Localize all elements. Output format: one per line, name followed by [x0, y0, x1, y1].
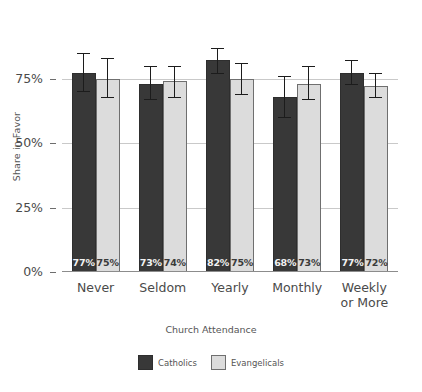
plot-area: 77%75%73%74%82%75%68%73%77%72%: [62, 14, 398, 272]
error-bar: [308, 66, 309, 100]
error-bar: [174, 66, 175, 97]
error-bar-cap-upper: [77, 53, 90, 54]
legend-label: Catholics: [158, 358, 197, 368]
bar-evangelicals[interactable]: 73%: [297, 84, 321, 272]
error-bar: [284, 76, 285, 117]
error-bar-cap-upper: [235, 63, 248, 64]
y-axis-tickmark: [50, 272, 56, 273]
bar-value-label: 75%: [231, 257, 253, 268]
bar-value-label: 73%: [140, 257, 162, 268]
error-bar-cap-lower: [345, 84, 358, 85]
error-bar-cap-lower: [235, 94, 248, 95]
error-bar: [107, 58, 108, 97]
error-bar: [375, 73, 376, 96]
error-bar: [241, 63, 242, 94]
bar-value-label: 82%: [207, 257, 229, 268]
dark-square-swatch: [138, 355, 153, 370]
legend-label: Evangelicals: [231, 358, 284, 368]
bar-catholics[interactable]: 82%: [206, 60, 230, 272]
y-axis-tickmark: [50, 79, 56, 80]
y-axis-tickmark: [50, 208, 56, 209]
bar-value-label: 75%: [97, 257, 119, 268]
bar-evangelicals[interactable]: 72%: [364, 86, 388, 272]
error-bar-cap-lower: [369, 97, 382, 98]
x-axis-tick-label: Yearly: [196, 280, 263, 295]
bar-value-label: 68%: [274, 257, 296, 268]
error-bar: [83, 53, 84, 92]
error-bar: [351, 60, 352, 83]
error-bar-cap-lower: [77, 91, 90, 92]
light-square-swatch: [211, 355, 226, 370]
y-axis-tick-label: 25%: [3, 202, 43, 215]
error-bar-cap-upper: [168, 66, 181, 67]
error-bar: [150, 66, 151, 100]
error-bar-cap-upper: [144, 66, 157, 67]
x-axis-tick-label: Monthly: [264, 280, 331, 295]
bar-evangelicals[interactable]: 75%: [96, 79, 120, 273]
error-bar-cap-lower: [211, 73, 224, 74]
chart-legend: CatholicsEvangelicals: [0, 355, 422, 370]
y-axis-tick-label: 75%: [3, 73, 43, 86]
y-axis-tick-label: 50%: [3, 137, 43, 150]
bar-catholics[interactable]: 73%: [139, 84, 163, 272]
x-axis-tick-label: Weeklyor More: [331, 280, 398, 310]
x-axis-baseline: [62, 271, 398, 272]
error-bar-cap-upper: [302, 66, 315, 67]
y-axis-tick-label: 0%: [3, 266, 43, 279]
bar-value-label: 74%: [164, 257, 186, 268]
bar-value-label: 77%: [73, 257, 95, 268]
legend-item[interactable]: Catholics: [138, 355, 197, 370]
x-axis-tick-label: Never: [62, 280, 129, 295]
bar-chart: Share in Favor 0%25%50%75% 77%75%73%74%8…: [0, 0, 422, 392]
error-bar-cap-lower: [302, 99, 315, 100]
error-bar-cap-lower: [101, 97, 114, 98]
error-bar-cap-upper: [345, 60, 358, 61]
bar-catholics[interactable]: 77%: [72, 73, 96, 272]
bar-value-label: 73%: [298, 257, 320, 268]
bar-group: 68%73%: [273, 14, 321, 272]
error-bar-cap-lower: [278, 117, 291, 118]
bar-evangelicals[interactable]: 74%: [163, 81, 187, 272]
bar-value-label: 77%: [341, 257, 363, 268]
legend-item[interactable]: Evangelicals: [211, 355, 284, 370]
y-axis-tickmark: [50, 143, 56, 144]
error-bar: [217, 48, 218, 74]
bar-group: 77%75%: [72, 14, 120, 272]
bar-group: 73%74%: [139, 14, 187, 272]
bar-catholics[interactable]: 68%: [273, 97, 297, 272]
error-bar-cap-lower: [144, 99, 157, 100]
x-axis-title: Church Attendance: [0, 324, 422, 335]
error-bar-cap-upper: [369, 73, 382, 74]
error-bar-cap-upper: [278, 76, 291, 77]
error-bar-cap-upper: [211, 48, 224, 49]
x-axis-tick-label: Seldom: [129, 280, 196, 295]
bar-evangelicals[interactable]: 75%: [230, 79, 254, 273]
bar-group: 77%72%: [340, 14, 388, 272]
bar-group: 82%75%: [206, 14, 254, 272]
error-bar-cap-upper: [101, 58, 114, 59]
bar-value-label: 72%: [365, 257, 387, 268]
bar-catholics[interactable]: 77%: [340, 73, 364, 272]
error-bar-cap-lower: [168, 97, 181, 98]
